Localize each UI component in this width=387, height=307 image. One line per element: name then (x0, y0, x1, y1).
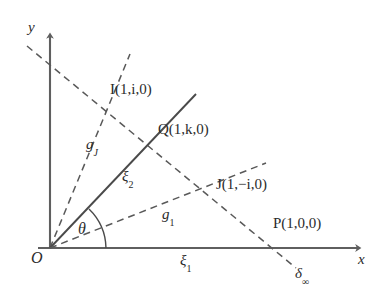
origin-label: O (31, 250, 43, 266)
line-label-xi-2: ξ2 (122, 168, 133, 187)
line-label-delta-sub: ∞ (302, 276, 309, 287)
angle-label-theta: θ (78, 221, 86, 237)
line-label-g-1: g1 (162, 206, 175, 225)
line-delta-infinity (27, 46, 296, 268)
point-label-P: P(1,0,0) (273, 216, 321, 231)
line-label-g-1-base: g (162, 206, 170, 222)
point-label-Q: Q(1,k,0) (158, 122, 209, 137)
point-label-I: I(1,i,0) (110, 82, 152, 97)
angle-arc-theta (89, 209, 106, 248)
y-axis-label: y (28, 20, 35, 35)
geometry-figure: y x O I(1,i,0) Q(1,k,0) J(1,−i,0) P(1,0,… (0, 0, 387, 307)
line-label-g-J-base: g (86, 136, 94, 152)
line-label-g-J-sub: J (94, 147, 98, 158)
line-label-g-1-sub: 1 (170, 217, 175, 228)
line-label-g-J: gJ (86, 136, 98, 155)
line-label-xi-2-sub: 2 (128, 179, 133, 190)
line-label-delta-infinity: δ∞ (295, 265, 309, 284)
line-label-xi-1-sub: 1 (186, 263, 191, 274)
point-label-J: J(1,−i,0) (216, 177, 267, 192)
line-label-delta-base: δ (295, 265, 302, 281)
x-axis-label: x (358, 252, 365, 267)
line-label-xi-1: ξ1 (180, 252, 191, 271)
figure-canvas (0, 0, 387, 307)
